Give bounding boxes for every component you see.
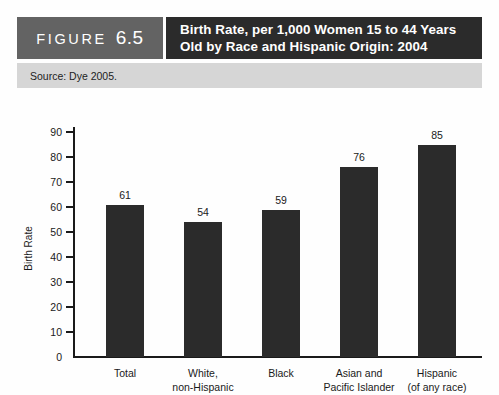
x-axis-category-line: Hispanic: [408, 366, 467, 380]
x-axis-category-label: White,non-Hispanic: [172, 366, 233, 394]
y-axis-tick-label: 20: [34, 301, 62, 313]
figure-title-line-2: Old by Race and Hispanic Origin: 2004: [180, 38, 476, 56]
x-axis-category-line: Black: [268, 366, 294, 380]
bar: [184, 222, 222, 357]
figure-title-box: Birth Rate, per 1,000 Women 15 to 44 Yea…: [166, 17, 482, 59]
x-axis-category-line: Asian and: [323, 366, 394, 380]
x-axis-category-label: Asian andPacific Islander: [323, 366, 394, 394]
bar-value-label: 61: [119, 189, 131, 201]
x-axis-category-label: Black: [268, 366, 294, 380]
y-axis-tick-label: 60: [34, 201, 62, 213]
bar-value-label: 54: [197, 206, 209, 218]
bar: [262, 210, 300, 358]
bar: [418, 145, 456, 358]
x-axis-category-line: (of any race): [408, 380, 467, 394]
y-axis-tick-label: 70: [34, 176, 62, 188]
figure-number-box: FIGURE 6.5: [17, 17, 163, 59]
plot-area: 61Total54White,non-Hispanic59Black76Asia…: [73, 132, 480, 357]
figure-header: FIGURE 6.5 Birth Rate, per 1,000 Women 1…: [17, 17, 482, 59]
y-axis-tick-label: 10: [34, 326, 62, 338]
y-axis-tick-label: 80: [34, 151, 62, 163]
y-axis-tick-label: 50: [34, 226, 62, 238]
x-axis-category-line: White,: [172, 366, 233, 380]
bar-chart: Birth Rate 0102030405060708090 61Total54…: [0, 95, 499, 395]
y-axis-tick-label: 30: [34, 276, 62, 288]
figure-word-label: FIGURE: [36, 31, 106, 47]
x-axis-category-line: Total: [114, 366, 136, 380]
figure-page: FIGURE 6.5 Birth Rate, per 1,000 Women 1…: [0, 0, 499, 395]
source-band: Source: Dye 2005.: [17, 63, 482, 88]
y-axis-tick-label: 40: [34, 251, 62, 263]
y-axis-title: Birth Rate: [23, 209, 34, 289]
y-axis-tick-label: 90: [34, 126, 62, 138]
figure-title-line-1: Birth Rate, per 1,000 Women 15 to 44 Yea…: [180, 21, 476, 39]
figure-label-group: FIGURE 6.5: [36, 27, 143, 49]
y-axis-tick-label: 0: [34, 351, 62, 363]
x-axis-category-line: Pacific Islander: [323, 380, 394, 394]
x-axis-category-label: Total: [114, 366, 136, 380]
x-axis-category-line: non-Hispanic: [172, 380, 233, 394]
bar-value-label: 85: [431, 129, 443, 141]
bar: [340, 167, 378, 357]
x-axis-category-label: Hispanic(of any race): [408, 366, 467, 394]
source-text: Source: Dye 2005.: [30, 70, 117, 82]
figure-number-label: 6.5: [116, 27, 144, 49]
bar: [106, 205, 144, 358]
bar-value-label: 59: [275, 194, 287, 206]
bar-value-label: 76: [353, 151, 365, 163]
